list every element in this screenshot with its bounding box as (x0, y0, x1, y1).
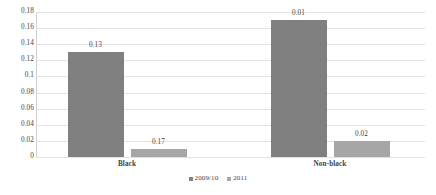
y-axis-tick-label: 0.02 (2, 137, 34, 144)
y-axis: 00.020.040.060.080.10.120.140.160.18 (0, 12, 34, 157)
y-axis-tick-label: 0.08 (2, 89, 34, 96)
bar-value-label: 0.13 (89, 42, 102, 49)
y-axis-tick-label: 0.16 (2, 25, 34, 32)
legend-label: 2009/10 (195, 175, 219, 182)
bar-value-label: 0.02 (355, 131, 368, 138)
bar (131, 149, 187, 157)
y-axis-tick-label: 0.12 (2, 57, 34, 64)
bar-value-label: 0.17 (152, 139, 165, 146)
y-axis-tick-label: 0 (2, 153, 34, 160)
bar (271, 20, 327, 157)
x-axis-category-label: Black (118, 161, 136, 168)
y-axis-tick-label: 0.14 (2, 41, 34, 48)
bar-value-label: 0.01 (292, 10, 305, 17)
chart-legend: 2009/102011 (0, 175, 436, 182)
y-axis-tick-label: 0.18 (2, 8, 34, 15)
gridline (36, 157, 425, 158)
y-axis-tick-label: 0.1 (2, 73, 34, 80)
y-axis-tick-label: 0.04 (2, 121, 34, 128)
y-axis-tick-label: 0.06 (2, 105, 34, 112)
legend-label: 2011 (233, 175, 247, 182)
legend-swatch-icon (227, 177, 231, 181)
gridline (36, 12, 425, 13)
bar (68, 52, 124, 157)
legend-item[interactable]: 2009/10 (189, 175, 219, 182)
plot-area: 0.130.170.010.02 (36, 12, 425, 157)
bar (334, 141, 390, 157)
gridline (36, 28, 425, 29)
legend-swatch-icon (189, 177, 193, 181)
x-axis-category-label: Non-black (314, 161, 347, 168)
legend-item[interactable]: 2011 (227, 175, 247, 182)
bar-chart: 00.020.040.060.080.10.120.140.160.18 0.1… (0, 0, 436, 195)
